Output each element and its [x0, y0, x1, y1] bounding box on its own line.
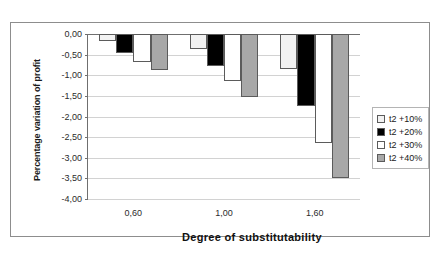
y-tick-mark: [85, 137, 88, 138]
y-tick-mark: [85, 158, 88, 159]
legend-swatch-icon: [377, 154, 385, 162]
bar: [224, 34, 241, 81]
chart-legend: t2 +10%t2 +20%t2 +30%t2 +40%: [372, 107, 429, 169]
bar-group: [280, 34, 349, 199]
legend-item: t2 +20%: [377, 125, 422, 138]
y-axis-title: Percentage variation of profit: [32, 50, 42, 190]
y-tick-label: -1,50: [61, 91, 82, 101]
legend-swatch-icon: [377, 128, 385, 136]
y-tick-mark: [85, 34, 88, 35]
bar: [332, 34, 349, 178]
y-tick-mark: [85, 199, 88, 200]
y-tick-label: -0,50: [61, 50, 82, 60]
bar: [207, 34, 224, 66]
legend-item: t2 +40%: [377, 151, 422, 164]
y-tick-label: -4,00: [61, 194, 82, 204]
y-tick-label: -3,50: [61, 173, 82, 183]
legend-swatch-icon: [377, 141, 385, 149]
legend-item: t2 +10%: [377, 112, 422, 125]
y-tick-label: 0,00: [64, 29, 82, 39]
y-tick-label: -3,00: [61, 153, 82, 163]
legend-label: t2 +30%: [389, 140, 422, 150]
chart-frame: Percentage variation of profit 0,00-0,50…: [10, 22, 430, 237]
y-tick-label: -2,00: [61, 112, 82, 122]
legend-item: t2 +30%: [377, 138, 422, 151]
bar: [315, 34, 332, 143]
bar-group: [190, 34, 259, 199]
y-tick-mark: [85, 178, 88, 179]
bar: [190, 34, 207, 49]
y-tick-mark: [85, 117, 88, 118]
x-axis-title: Degree of substitutability: [182, 231, 322, 243]
y-tick-label: -2,50: [61, 132, 82, 142]
x-tick-label: 1,00: [215, 208, 233, 218]
y-tick-mark: [85, 55, 88, 56]
x-tick-label: 1,60: [306, 208, 324, 218]
bar: [297, 34, 314, 106]
legend-label: t2 +40%: [389, 153, 422, 163]
legend-label: t2 +10%: [389, 114, 422, 124]
chart-screenshot: Percentage variation of profit 0,00-0,50…: [0, 0, 447, 258]
legend-label: t2 +20%: [389, 127, 422, 137]
bar: [241, 34, 258, 97]
bar: [280, 34, 297, 69]
legend-swatch-icon: [377, 115, 385, 123]
gridline: [88, 199, 360, 200]
plot-area: 0,00-0,50-1,00-1,50-2,00-2,50-3,00-3,50-…: [87, 34, 360, 200]
bar: [133, 34, 150, 62]
bar-group: [99, 34, 168, 199]
x-tick-label: 0,60: [125, 208, 143, 218]
bar: [151, 34, 168, 70]
y-tick-mark: [85, 75, 88, 76]
y-tick-mark: [85, 96, 88, 97]
bar: [116, 34, 133, 53]
y-tick-label: -1,00: [61, 70, 82, 80]
bar: [99, 34, 116, 41]
